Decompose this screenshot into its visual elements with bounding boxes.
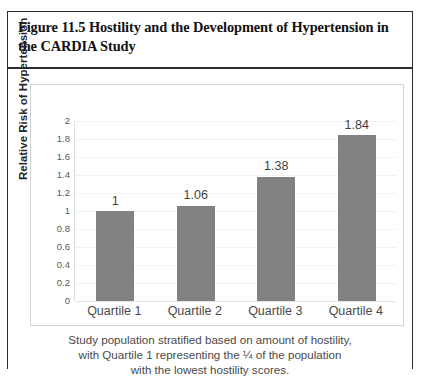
x-axis-tick-label: Quartile 3 [248,305,302,318]
y-axis-tick-label: 0.2 [40,278,70,288]
figure-caption: Study population stratified based on amo… [8,332,412,377]
x-axis-labels: Quartile 1Quartile 2Quartile 3Quartile 4 [74,305,396,327]
gridline [75,301,396,302]
bar-slot: 1 [75,121,156,301]
bar[interactable] [177,206,215,301]
y-axis-tick-label: 0 [40,296,70,306]
bar-slot: 1.38 [236,121,317,301]
y-axis-tick-label: 1 [40,206,70,216]
bar[interactable] [96,211,134,301]
y-axis-tick-label: 2 [40,116,70,126]
y-axis-tick-label: 1.2 [40,188,70,198]
caption-line: Study population stratified based on amo… [8,332,412,347]
chart-container: Relative Risk of Hypertension 21.81.61.4… [30,84,404,326]
bar[interactable] [338,135,376,301]
bar-value-label: 1.38 [264,160,288,173]
y-axis-tick-label: 1.4 [40,170,70,180]
x-axis-tick-label: Quartile 2 [168,305,222,318]
y-axis-tick-label: 1.8 [40,134,70,144]
figure-frame: Figure 11.5 Hostility and the Developmen… [7,11,413,369]
x-axis-tick-label: Quartile 1 [87,305,141,318]
y-axis-tick-label: 0.4 [40,260,70,270]
x-axis-tick-label: Quartile 4 [329,305,383,318]
bar-slot: 1.06 [156,121,237,301]
y-axis-title: Relative Risk of Hypertension [17,0,29,180]
figure-title: Figure 11.5 Hostility and the Developmen… [18,18,404,56]
y-axis-tick-label: 0.8 [40,224,70,234]
bar[interactable] [257,177,295,301]
plot-area: 21.81.61.41.210.80.60.40.2011.061.381.84 [74,121,396,301]
bar-slot: 1.84 [317,121,398,301]
bar-value-label: 1.06 [184,189,208,202]
figure-title-band: Figure 11.5 Hostility and the Developmen… [8,12,412,69]
bar-value-label: 1 [112,195,119,208]
bar-value-label: 1.84 [345,119,369,132]
y-axis-tick-label: 1.6 [40,152,70,162]
caption-line: with the lowest hostility scores. [8,362,412,377]
y-axis-tick-label: 0.6 [40,242,70,252]
caption-line: with Quartile 1 representing the ¼ of th… [8,347,412,362]
